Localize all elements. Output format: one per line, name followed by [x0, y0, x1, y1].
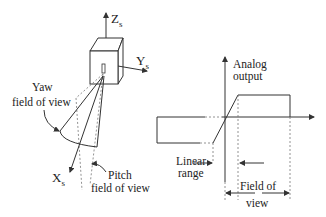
sensor-box [90, 38, 123, 84]
pitch-label-line2: field of view [91, 182, 150, 194]
linear-range-line1: Linear [176, 155, 206, 167]
y-axis-title-line2: output [233, 70, 263, 83]
linear-range-line2: range [178, 167, 204, 180]
pitch-leader-arrow [92, 164, 106, 172]
y-axis-label: Ys [136, 53, 149, 71]
fov-line1: Field of [240, 180, 276, 192]
yaw-leader-arrow [44, 110, 59, 131]
sensor-geometry: Zs Ys Xs Yaw field of view [12, 11, 150, 194]
x-axis-arrow [70, 76, 103, 172]
output-graph: Analog output Linear range Field of view [157, 57, 314, 209]
sensor-slit [102, 64, 105, 73]
x-axis-label: Xs [52, 170, 65, 188]
yaw-label-line1: Yaw [32, 81, 53, 93]
output-curve [157, 95, 290, 143]
pitch-label-line1: Pitch [108, 169, 132, 181]
z-axis-label: Zs [111, 11, 123, 29]
yaw-label-line2: field of view [12, 96, 71, 108]
sun-sensor-diagram: Zs Ys Xs Yaw field of view [0, 0, 326, 217]
fov-line2: view [246, 197, 269, 209]
